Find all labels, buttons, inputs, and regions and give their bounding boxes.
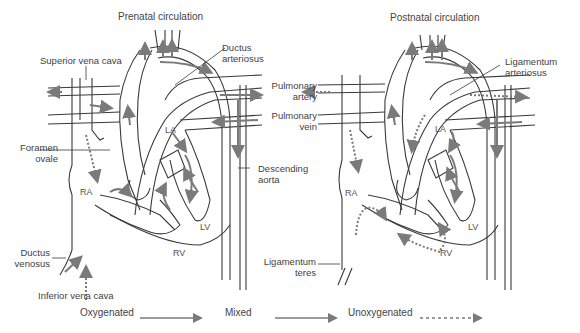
legend-mixed: Mixed xyxy=(225,307,252,318)
label-ligamentum-arteriosus-line2: arteriosus xyxy=(505,67,557,78)
label-pulmonary-vein-line1: Pulmonary xyxy=(262,110,317,121)
postnatal-title: Postnatal circulation xyxy=(390,12,480,23)
prenatal-lv: LV xyxy=(200,222,210,232)
label-descending-aorta-line1: Descending xyxy=(258,163,308,174)
postnatal-heart xyxy=(318,35,535,290)
prenatal-heart xyxy=(48,30,262,290)
postnatal-lv: LV xyxy=(468,222,478,232)
label-inferior-vena-cava: Inferior vena cava xyxy=(38,290,114,301)
label-descending-aorta-line2: aorta xyxy=(258,174,308,185)
label-pulmonary-vein-line2: vein xyxy=(262,121,317,132)
label-ligamentum-teres: Ligamentum teres xyxy=(252,256,316,278)
label-ligamentum-teres-line2: teres xyxy=(252,267,316,278)
label-ductus-arteriosus-line2: arteriosus xyxy=(222,53,264,64)
label-ligamentum-arteriosus: Ligamentum arteriosus xyxy=(505,56,557,78)
label-foramen-ovale-line1: Foramen xyxy=(16,142,58,153)
label-ductus-venosus: Ductus venosus xyxy=(10,247,50,269)
label-pulmonary-artery-line2: artery xyxy=(262,91,317,102)
label-superior-vena-cava: Superior vena cava xyxy=(40,55,122,66)
prenatal-rv: RV xyxy=(173,248,185,258)
prenatal-ra: RA xyxy=(80,187,93,197)
label-pulmonary-artery: Pulmonary artery xyxy=(262,80,317,102)
postnatal-ra: RA xyxy=(345,188,358,198)
label-ligamentum-arteriosus-line1: Ligamentum xyxy=(505,56,557,67)
legend-unoxygenated: Unoxygenated xyxy=(348,307,413,318)
postnatal-la: LA xyxy=(435,124,446,134)
postnatal-rv: RV xyxy=(440,248,452,258)
label-descending-aorta: Descending aorta xyxy=(258,163,308,185)
label-pulmonary-vein: Pulmonary vein xyxy=(262,110,317,132)
label-ductus-venosus-line2: venosus xyxy=(10,258,50,269)
label-ligamentum-teres-line1: Ligamentum xyxy=(252,256,316,267)
label-ductus-arteriosus: Ductus arteriosus xyxy=(222,42,264,64)
label-foramen-ovale: Foramen ovale xyxy=(16,142,58,164)
label-ductus-venosus-line1: Ductus xyxy=(10,247,50,258)
label-pulmonary-artery-line1: Pulmonary xyxy=(262,80,317,91)
prenatal-title: Prenatal circulation xyxy=(118,11,203,22)
prenatal-la: LA xyxy=(165,125,176,135)
label-ductus-arteriosus-line1: Ductus xyxy=(222,42,264,53)
legend-oxygenated: Oxygenated xyxy=(80,307,134,318)
label-foramen-ovale-line2: ovale xyxy=(16,153,58,164)
